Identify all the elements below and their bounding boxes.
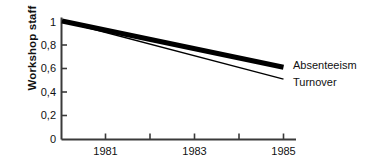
x-tick-label-1983: 1983 (182, 146, 206, 157)
chart-figure: Workshop staff 1 0,8 0,6 0,4 0,2 0 (0, 0, 371, 167)
series-label-absenteeism: Absenteeism (293, 60, 357, 71)
series-label-turnover: Turnover (293, 77, 337, 88)
x-tick-label-1985: 1985 (271, 146, 295, 157)
x-tick-label-1981: 1981 (93, 146, 117, 157)
